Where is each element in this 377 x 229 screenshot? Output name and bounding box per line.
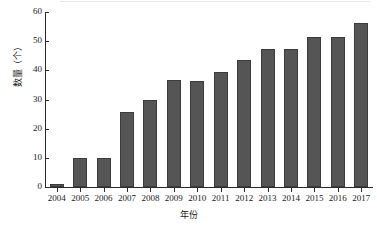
y-axis-title: 数量（个） [11,20,24,110]
scan-artifact-line [60,1,370,2]
x-axis-tick [57,188,58,192]
bar [167,80,181,187]
bar [284,49,298,187]
x-axis-tick-label: 2013 [259,193,277,204]
bar [307,37,321,187]
x-axis-tick [268,188,269,192]
bar-chart: 数量（个） 0102030405060 20042005200620072008… [0,0,377,229]
x-axis-tick [314,188,315,192]
x-axis-title: 年份 [0,208,377,221]
x-axis-tick [104,188,105,192]
x-axis-tick-label: 2014 [282,193,300,204]
x-axis-tick-label: 2011 [212,193,230,204]
bar [120,112,134,187]
y-axis-tick-label: 30 [33,94,42,105]
x-axis-tick-label: 2008 [141,193,159,204]
x-axis-tick [244,188,245,192]
x-axis-tick-label: 2016 [329,193,347,204]
x-axis-tick [150,188,151,192]
x-axis-tick-label: 2009 [165,193,183,204]
bar [73,158,87,187]
x-axis-tick-label: 2006 [95,193,113,204]
plot-area [45,12,373,187]
bar [143,100,157,187]
x-axis-tick-label: 2007 [118,193,136,204]
x-axis-tick-label: 2010 [188,193,206,204]
y-axis-tick-label: 20 [33,123,42,134]
x-axis-tick-label: 2004 [48,193,66,204]
y-axis-tick-label: 60 [33,6,42,17]
bar [354,23,368,187]
bar [331,37,345,187]
x-axis-line [45,187,373,188]
x-axis-tick [221,188,222,192]
bar [237,60,251,187]
x-axis-tick-label: 2005 [71,193,89,204]
x-axis-tick-label: 2017 [352,193,370,204]
x-axis-tick-label: 2015 [305,193,323,204]
bar [190,81,204,187]
y-axis-tick-label: 10 [33,152,42,163]
x-axis-tick-label: 2012 [235,193,253,204]
y-axis-tick-label: 40 [33,64,42,75]
x-axis-tick [338,188,339,192]
x-axis-tick [127,188,128,192]
x-axis-tick [197,188,198,192]
x-axis-tick [174,188,175,192]
x-axis-tick [80,188,81,192]
x-axis-tick [361,188,362,192]
y-axis-tick-label: 0 [38,181,43,192]
y-axis-tick-label: 50 [33,35,42,46]
bar [97,158,111,187]
bar [261,49,275,187]
x-axis-tick [291,188,292,192]
bar [214,72,228,187]
